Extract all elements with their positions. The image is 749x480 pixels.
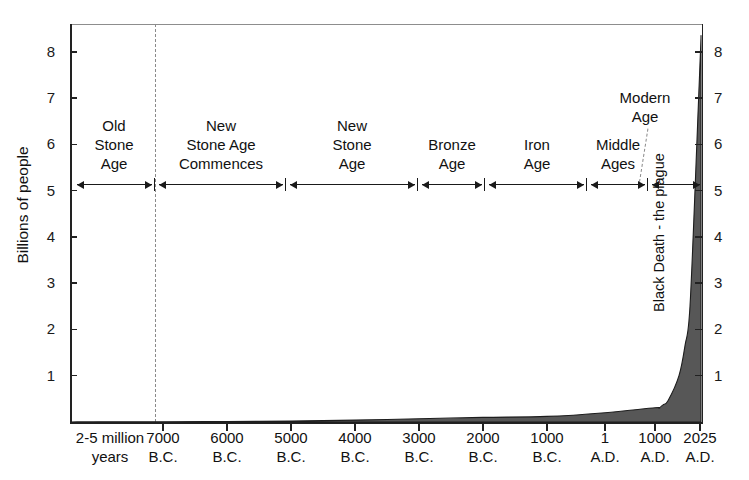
y-tick-label-right-8: 8 [714, 43, 736, 60]
y-tick-label-right-4: 4 [714, 228, 736, 245]
y-tick-mark-right-5 [695, 190, 702, 192]
y-tick-mark-right-4 [695, 236, 702, 238]
y-tick-label-left-4: 4 [33, 228, 55, 245]
y-tick-label-right-3: 3 [714, 274, 736, 291]
y-tick-mark-right-3 [695, 282, 702, 284]
x-tick-label-line2: A.D. [652, 448, 748, 467]
y-tick-mark-left-8 [70, 51, 77, 53]
y-tick-mark-right-8 [695, 51, 702, 53]
y-tick-label-right-7: 7 [714, 89, 736, 106]
y-tick-label-right-1: 1 [714, 367, 736, 384]
y-tick-label-right-5: 5 [714, 182, 736, 199]
y-tick-mark-right-1 [695, 375, 702, 377]
y-tick-mark-left-4 [70, 236, 77, 238]
y-tick-label-left-2: 2 [33, 320, 55, 337]
black-death-annotation: Black Death - the plague [651, 102, 667, 312]
y-tick-mark-right-6 [695, 144, 702, 146]
y-axis-label: Billions of people [14, 120, 32, 290]
x-tick-label-line1: 2025 [652, 429, 748, 448]
y-tick-mark-left-6 [70, 144, 77, 146]
y-tick-label-right-2: 2 [714, 320, 736, 337]
y-tick-mark-left-2 [70, 329, 77, 331]
y-tick-mark-right-7 [695, 97, 702, 99]
y-tick-mark-left-7 [70, 97, 77, 99]
population-area-series [0, 0, 749, 480]
y-tick-label-left-1: 1 [33, 367, 55, 384]
y-tick-mark-right-2 [695, 329, 702, 331]
x-tick-label-10: 2025A.D. [652, 429, 748, 466]
y-tick-mark-left-3 [70, 282, 77, 284]
y-tick-label-left-8: 8 [33, 43, 55, 60]
y-tick-label-right-6: 6 [714, 135, 736, 152]
y-tick-label-left-5: 5 [33, 182, 55, 199]
y-tick-mark-left-5 [70, 190, 77, 192]
population-chart: World population over the course of hist… [0, 0, 749, 480]
y-tick-label-left-6: 6 [33, 135, 55, 152]
y-tick-label-left-7: 7 [33, 89, 55, 106]
y-tick-label-left-3: 3 [33, 274, 55, 291]
y-tick-mark-left-1 [70, 375, 77, 377]
